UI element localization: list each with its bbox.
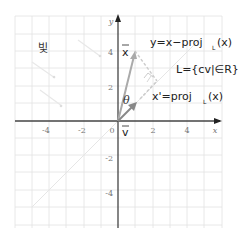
equation-x-prime: x'=proj L (x): [152, 90, 223, 105]
svg-text:L: L: [203, 98, 207, 105]
svg-text:L: L: [212, 44, 216, 51]
y-axis-label: y: [108, 17, 114, 26]
y-axis-arrow: [115, 14, 121, 22]
vector-x: [118, 56, 134, 121]
svg-text:(x): (x): [208, 90, 223, 103]
projection-diagram: -4 -2 0 2 4 x 4 2 -2 -4 y x v θ y=x−proj…: [0, 0, 252, 240]
y-tick-label: 4: [108, 48, 113, 57]
x-tick-label: 4: [184, 126, 189, 135]
vector-v-label: v: [122, 126, 129, 139]
light-note: 빛: [38, 42, 48, 55]
svg-text:x'=proj: x'=proj: [152, 90, 192, 103]
svg-text:y=x−proj: y=x−proj: [150, 36, 203, 49]
x-axis-arrow: [214, 118, 222, 124]
svg-text:(x): (x): [217, 36, 232, 49]
x-tick-label: -4: [42, 126, 50, 135]
x-tick-label: -2: [78, 126, 86, 135]
y-tick-label: 2: [108, 83, 113, 92]
theta-label: θ: [123, 94, 130, 107]
x-tick-label: 0: [109, 126, 114, 135]
line-L: [32, 39, 200, 207]
equation-y: y=x−proj L (x): [150, 36, 232, 51]
equation-L: L={cv|∈R}: [176, 63, 239, 76]
right-angle-marker: [144, 73, 153, 78]
vector-x-label: x: [122, 46, 129, 59]
x-tick-label: 2: [150, 126, 155, 135]
y-tick-label: -4: [105, 189, 113, 198]
perpendicular-y: [135, 51, 157, 81]
light-ray-dots: [53, 55, 102, 108]
y-tick-label: -2: [105, 154, 113, 163]
x-axis-label: x: [213, 126, 218, 135]
svg-text:L={cv|∈R}: L={cv|∈R}: [176, 63, 239, 76]
